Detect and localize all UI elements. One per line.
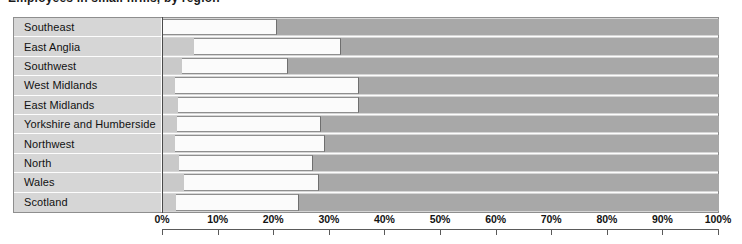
axis-tick	[718, 229, 719, 235]
axis-tick-label: 20%	[263, 213, 284, 225]
region-label-cell: Southwest	[14, 57, 162, 75]
bar-row: Yorkshire and Humberside	[14, 115, 718, 134]
axis-tick	[607, 229, 608, 235]
region-label: Yorkshire and Humberside	[14, 118, 156, 130]
bar-segment-c	[321, 116, 719, 132]
axis-tick	[162, 229, 163, 235]
bar-row: Wales	[14, 173, 718, 192]
bar-segment-c	[288, 58, 719, 74]
region-label-cell: Southeast	[14, 18, 162, 36]
axis-tick-label: 40%	[374, 213, 395, 225]
axis-tick-label: 100%	[705, 213, 731, 225]
bar-segment-b	[178, 97, 359, 113]
bar-track	[163, 57, 718, 75]
bar-row: North	[14, 154, 718, 173]
bar-segment-b	[175, 135, 325, 151]
region-label-cell: Northwest	[14, 134, 162, 152]
bar-row: East Midlands	[14, 96, 718, 115]
bar-row: Northwest	[14, 134, 718, 153]
bar-track	[163, 173, 718, 191]
region-label-cell: Yorkshire and Humberside	[14, 115, 162, 133]
region-label: Southwest	[14, 60, 76, 72]
bar-track	[163, 115, 718, 133]
bar-segment-a	[163, 174, 184, 190]
region-label: Wales	[14, 176, 55, 188]
region-label: East Anglia	[14, 41, 80, 53]
bar-row: West Midlands	[14, 76, 718, 95]
region-label: Southeast	[14, 21, 74, 33]
axis-tick	[273, 229, 274, 235]
chart-title-sliver: Employees in small firms, by region	[8, 0, 308, 5]
bar-track	[163, 154, 718, 172]
region-label-cell: Wales	[14, 173, 162, 191]
bar-track	[163, 193, 718, 212]
bar-segment-a	[163, 97, 178, 113]
region-label-cell: North	[14, 154, 162, 172]
axis-tick	[496, 229, 497, 235]
bar-segment-c	[359, 77, 719, 93]
bar-segment-c	[313, 155, 719, 171]
axis-tick-label: 60%	[485, 213, 506, 225]
axis-tick-label: 90%	[652, 213, 673, 225]
axis-tick	[662, 229, 663, 235]
bar-track	[163, 76, 718, 94]
bar-row: Southwest	[14, 57, 718, 76]
axis-tick	[329, 229, 330, 235]
region-label: Scotland	[14, 196, 68, 208]
bar-segment-a	[163, 194, 176, 211]
bar-segment-a	[163, 116, 177, 132]
bar-segment-b	[177, 116, 321, 132]
bar-segment-c	[325, 135, 719, 151]
bar-segment-b	[176, 194, 299, 211]
zero-gridline	[162, 17, 163, 213]
bar-segment-b	[175, 77, 359, 93]
x-axis: 0%10%20%30%40%50%60%70%80%90%100%	[0, 213, 742, 244]
axis-tick-label: 50%	[430, 213, 451, 225]
axis-tick	[384, 229, 385, 235]
bar-row: East Anglia	[14, 37, 718, 56]
region-label-cell: East Midlands	[14, 96, 162, 114]
region-label-cell: West Midlands	[14, 76, 162, 94]
bar-track	[163, 18, 718, 36]
bar-track	[163, 134, 718, 152]
axis-tick	[218, 229, 219, 235]
bar-row: Scotland	[14, 193, 718, 212]
region-label-cell: East Anglia	[14, 37, 162, 55]
axis-tick-label: 80%	[596, 213, 617, 225]
bar-track	[163, 37, 718, 55]
bar-segment-b	[163, 19, 277, 35]
bar-segment-a	[163, 135, 175, 151]
region-label: East Midlands	[14, 99, 94, 111]
bar-segment-a	[163, 77, 175, 93]
bar-segment-b	[179, 155, 313, 171]
region-label-cell: Scotland	[14, 193, 162, 212]
bar-track	[163, 96, 718, 114]
bar-segment-c	[277, 19, 719, 35]
chart-plot-frame: SoutheastEast AngliaSouthwestWest Midlan…	[13, 17, 719, 213]
bar-row: Southeast	[14, 18, 718, 37]
bar-segment-a	[163, 38, 194, 54]
bar-segment-b	[182, 58, 288, 74]
axis-tick-label: 30%	[318, 213, 339, 225]
bar-segment-b	[184, 174, 319, 190]
bar-segment-c	[319, 174, 719, 190]
bar-segment-a	[163, 155, 179, 171]
bar-segment-a	[163, 58, 182, 74]
bar-segment-c	[359, 97, 719, 113]
axis-tick-label: 70%	[541, 213, 562, 225]
region-label: North	[14, 157, 51, 169]
bar-segment-c	[341, 38, 719, 54]
region-label: Northwest	[14, 138, 74, 150]
axis-tick-label: 0%	[155, 213, 170, 225]
region-label: West Midlands	[14, 79, 97, 91]
bar-segment-b	[194, 38, 341, 54]
bar-segment-c	[299, 194, 719, 211]
axis-tick	[551, 229, 552, 235]
axis-tick	[440, 229, 441, 235]
axis-tick-label: 10%	[207, 213, 228, 225]
